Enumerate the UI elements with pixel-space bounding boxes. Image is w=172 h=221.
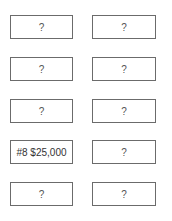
box-row4-left: #8 $25,000: [10, 140, 73, 164]
box-row1-left: ?: [10, 15, 73, 39]
box-row2-right: ?: [92, 57, 156, 81]
box-row3-left: ?: [10, 99, 73, 123]
box-row5-right: ?: [92, 182, 156, 206]
box-row4-right: ?: [92, 140, 156, 164]
box-row5-left: ?: [10, 182, 73, 206]
box-row1-right: ?: [92, 15, 156, 39]
box-row3-right: ?: [92, 99, 156, 123]
box-row2-left: ?: [10, 57, 73, 81]
